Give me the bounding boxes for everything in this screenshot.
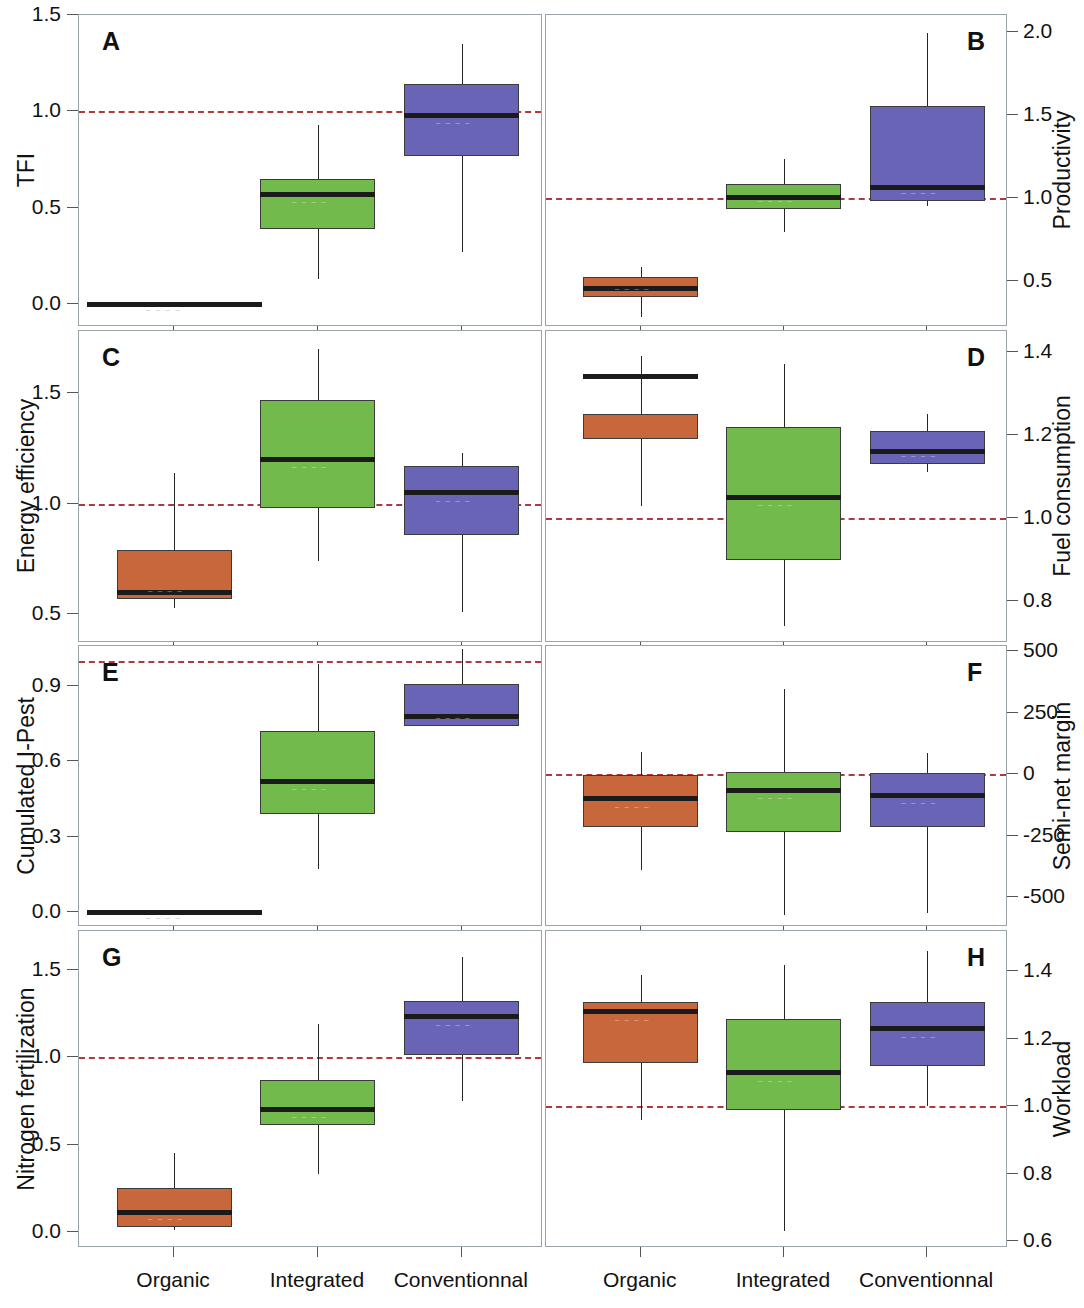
y-tick bbox=[1007, 835, 1018, 836]
axis-title-b: Productivity bbox=[1051, 111, 1074, 230]
y-tick bbox=[67, 14, 78, 15]
y-tick-label: -500 bbox=[1023, 885, 1065, 906]
y-tick bbox=[67, 1144, 78, 1145]
plot-area-g: — — — —— — — —— — — — bbox=[79, 931, 541, 1246]
boxplot-d-conventionnal: — — — — bbox=[546, 331, 1006, 641]
median-line bbox=[404, 1014, 519, 1019]
panel-letter-d: D bbox=[967, 345, 985, 370]
whisker-upper bbox=[462, 649, 463, 684]
whisker-upper bbox=[927, 951, 928, 1002]
y-tick-label: 500 bbox=[1023, 639, 1058, 660]
y-tick bbox=[67, 392, 78, 393]
y-tick bbox=[67, 1056, 78, 1057]
y-tick bbox=[1007, 773, 1018, 774]
y-tick-label: 1.5 bbox=[0, 958, 61, 979]
panel-letter-c: C bbox=[102, 345, 120, 370]
plot-area-a: — — — —— — — —— — — — bbox=[79, 15, 541, 325]
y-tick-label: 0 bbox=[1023, 762, 1035, 783]
y-tick bbox=[67, 303, 78, 304]
y-tick bbox=[1007, 114, 1018, 115]
whisker-lower bbox=[927, 464, 928, 472]
axis-title-g: Nitrogen fertilization bbox=[15, 987, 38, 1190]
boxplot-a-conventionnal: — — — — bbox=[79, 15, 541, 325]
y-tick bbox=[67, 760, 78, 761]
box-conventionnal bbox=[404, 466, 519, 535]
whisker-upper bbox=[927, 753, 928, 773]
whisker-upper bbox=[927, 33, 928, 106]
y-tick bbox=[1007, 1038, 1018, 1039]
plot-area-c: — — — —— — — —— — — — bbox=[79, 331, 541, 641]
panel-letter-h: H bbox=[967, 945, 985, 970]
panel-g: — — — —— — — —— — — — bbox=[78, 930, 542, 1247]
axis-title-d: Fuel consumption bbox=[1051, 395, 1074, 577]
y-tick-label: 2.0 bbox=[1023, 20, 1052, 41]
x-tick bbox=[783, 1247, 784, 1257]
y-tick bbox=[1007, 197, 1018, 198]
y-tick-label: 0.0 bbox=[0, 900, 61, 921]
whisker-lower bbox=[927, 1066, 928, 1106]
y-tick bbox=[1007, 600, 1018, 601]
median-line bbox=[870, 793, 985, 798]
panel-a: — — — —— — — —— — — — bbox=[78, 14, 542, 326]
box-conventionnal bbox=[870, 773, 985, 827]
axis-title-f: Semi-net margin bbox=[1051, 701, 1074, 870]
whisker-lower bbox=[927, 827, 928, 913]
whisker-lower bbox=[462, 1055, 463, 1101]
boxplot-figure: — — — —— — — —— — — —0.00.51.01.5TFIA— —… bbox=[0, 0, 1084, 1308]
y-tick-label: 0.6 bbox=[1023, 1229, 1052, 1250]
y-tick bbox=[1007, 1240, 1018, 1241]
y-tick bbox=[1007, 1173, 1018, 1174]
whisker-upper bbox=[927, 414, 928, 431]
y-tick bbox=[67, 1231, 78, 1232]
box-conventionnal bbox=[870, 431, 985, 464]
y-tick-label: 0.9 bbox=[0, 674, 61, 695]
panel-letter-f: F bbox=[967, 660, 982, 685]
median-line bbox=[870, 1026, 985, 1031]
y-tick bbox=[1007, 517, 1018, 518]
plot-area-b: — — — —— — — —— — — — bbox=[546, 15, 1006, 325]
y-tick bbox=[1007, 970, 1018, 971]
axis-title-h: Workload bbox=[1051, 1040, 1074, 1137]
y-tick bbox=[1007, 896, 1018, 897]
plot-area-e: — — — —— — — —— — — — bbox=[79, 646, 541, 925]
boxplot-c-conventionnal: — — — — bbox=[79, 331, 541, 641]
box-conventionnal bbox=[404, 84, 519, 155]
panel-e: — — — —— — — —— — — — bbox=[78, 645, 542, 926]
boxplot-f-conventionnal: — — — — bbox=[546, 646, 1006, 925]
y-tick bbox=[67, 685, 78, 686]
y-tick bbox=[1007, 351, 1018, 352]
boxplot-e-conventionnal: — — — — bbox=[79, 646, 541, 925]
y-tick bbox=[1007, 712, 1018, 713]
x-tick bbox=[317, 1247, 318, 1257]
boxplot-g-conventionnal: — — — — bbox=[79, 931, 541, 1246]
y-tick-label: 0.5 bbox=[1023, 269, 1052, 290]
x-tick bbox=[173, 1247, 174, 1257]
x-tick bbox=[926, 1247, 927, 1257]
axis-title-c: Energy efficiency bbox=[15, 399, 38, 574]
median-line bbox=[404, 714, 519, 719]
plot-area-f: — — — —— — — —— — — — bbox=[546, 646, 1006, 925]
y-tick bbox=[67, 969, 78, 970]
y-tick-label: 0.8 bbox=[1023, 1162, 1052, 1183]
y-tick bbox=[67, 503, 78, 504]
panel-c: — — — —— — — —— — — — bbox=[78, 330, 542, 642]
panel-d: — — — —— — — —— — — — bbox=[545, 330, 1007, 642]
y-tick bbox=[1007, 280, 1018, 281]
boxplot-h-conventionnal: — — — — bbox=[546, 931, 1006, 1246]
median-line bbox=[404, 490, 519, 495]
panel-f: — — — —— — — —— — — — bbox=[545, 645, 1007, 926]
panel-letter-g: G bbox=[102, 945, 121, 970]
whisker-lower bbox=[462, 535, 463, 612]
y-tick-label: 0.0 bbox=[0, 1220, 61, 1241]
whisker-upper bbox=[462, 453, 463, 466]
y-tick-label: 0.5 bbox=[0, 602, 61, 623]
axis-title-e: Cumulated I-Pest bbox=[15, 697, 38, 875]
y-tick-label: 0.8 bbox=[1023, 589, 1052, 610]
panel-b: — — — —— — — —— — — — bbox=[545, 14, 1007, 326]
y-tick bbox=[67, 207, 78, 208]
y-tick-label: 0.5 bbox=[0, 196, 61, 217]
y-tick-label: 0.0 bbox=[0, 292, 61, 313]
whisker-upper bbox=[462, 957, 463, 1001]
panel-letter-b: B bbox=[967, 29, 985, 54]
y-tick-label: 1.0 bbox=[0, 99, 61, 120]
